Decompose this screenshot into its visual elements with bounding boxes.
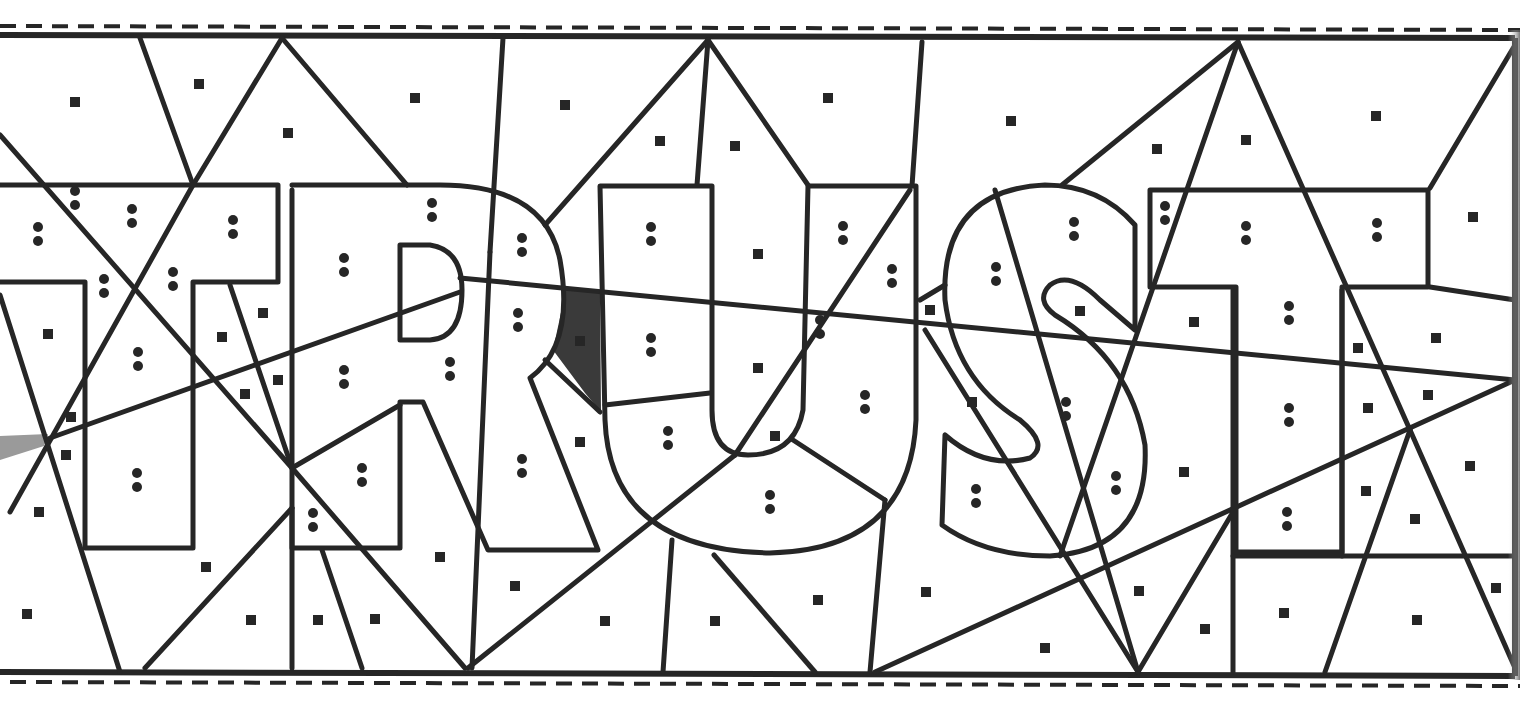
square-symbol bbox=[753, 249, 763, 259]
double-dot-symbol bbox=[513, 308, 523, 332]
square-symbol bbox=[435, 552, 445, 562]
square-symbol bbox=[1353, 343, 1363, 353]
double-dot-symbol bbox=[308, 508, 318, 532]
square-symbol bbox=[1361, 486, 1371, 496]
double-dot-symbol bbox=[887, 264, 897, 288]
square-symbol bbox=[194, 79, 204, 89]
square-symbol bbox=[370, 614, 380, 624]
square-symbol bbox=[560, 100, 570, 110]
square-symbol bbox=[823, 93, 833, 103]
double-dot-symbol bbox=[1284, 301, 1294, 325]
square-symbol bbox=[1241, 135, 1251, 145]
square-symbol bbox=[967, 397, 977, 407]
double-dot-symbol bbox=[1372, 218, 1382, 242]
double-dot-symbol bbox=[357, 463, 367, 487]
square-symbol bbox=[34, 507, 44, 517]
double-dot-symbol bbox=[1284, 403, 1294, 427]
double-dot-symbol bbox=[1241, 221, 1251, 245]
double-dot-symbol bbox=[1069, 217, 1079, 241]
double-dot-symbol bbox=[427, 198, 437, 222]
double-dot-symbol bbox=[339, 253, 349, 277]
square-symbol bbox=[1491, 583, 1501, 593]
double-dot-symbol bbox=[1160, 201, 1170, 225]
square-symbol bbox=[710, 616, 720, 626]
background-lines bbox=[0, 38, 1515, 672]
double-dot-symbol bbox=[991, 262, 1001, 286]
square-symbol bbox=[600, 616, 610, 626]
square-symbol bbox=[1134, 586, 1144, 596]
square-symbol bbox=[575, 336, 585, 346]
square-symbol bbox=[1189, 317, 1199, 327]
square-symbol bbox=[1006, 116, 1016, 126]
double-dot-symbol bbox=[339, 365, 349, 389]
square-symbol bbox=[240, 389, 250, 399]
double-dot-symbol bbox=[1111, 471, 1121, 495]
page-edge-shadow bbox=[1508, 30, 1520, 680]
double-dot-symbol bbox=[646, 222, 656, 246]
square-symbol bbox=[1179, 467, 1189, 477]
square-symbol bbox=[313, 615, 323, 625]
square-symbol bbox=[1431, 333, 1441, 343]
square-symbol bbox=[1412, 615, 1422, 625]
square-symbol bbox=[1075, 306, 1085, 316]
coloring-sheet bbox=[0, 0, 1520, 725]
square-symbol bbox=[1200, 624, 1210, 634]
double-dot-symbol bbox=[1282, 507, 1292, 531]
double-dot-symbol bbox=[127, 204, 137, 228]
double-dot-symbol bbox=[99, 274, 109, 298]
square-symbol bbox=[1465, 461, 1475, 471]
double-dot-symbol bbox=[133, 347, 143, 371]
square-symbol bbox=[1279, 608, 1289, 618]
double-dot-symbol bbox=[646, 333, 656, 357]
double-dot-symbol bbox=[663, 426, 673, 450]
square-symbol bbox=[201, 562, 211, 572]
double-dot-symbol bbox=[33, 222, 43, 246]
double-dot-symbol bbox=[517, 454, 527, 478]
double-dot-symbol bbox=[168, 267, 178, 291]
double-dot-symbol bbox=[838, 221, 848, 245]
double-dot-symbol bbox=[132, 468, 142, 492]
square-symbol bbox=[655, 136, 665, 146]
square-symbol bbox=[43, 329, 53, 339]
square-symbol bbox=[921, 587, 931, 597]
square-symbol bbox=[258, 308, 268, 318]
square-symbol bbox=[1152, 144, 1162, 154]
double-dot-symbol bbox=[860, 390, 870, 414]
square-symbol bbox=[410, 93, 420, 103]
double-dot-symbol bbox=[517, 233, 527, 257]
double-dot-symbol bbox=[971, 484, 981, 508]
double-dot-symbol bbox=[765, 490, 775, 514]
square-symbol bbox=[510, 581, 520, 591]
square-symbol bbox=[770, 431, 780, 441]
square-symbol bbox=[925, 305, 935, 315]
square-symbol bbox=[1423, 390, 1433, 400]
square-symbol bbox=[1410, 514, 1420, 524]
square-symbol bbox=[730, 141, 740, 151]
double-dot-symbol bbox=[228, 215, 238, 239]
square-symbol bbox=[22, 609, 32, 619]
double-dot-symbol bbox=[70, 186, 80, 210]
square-symbol bbox=[246, 615, 256, 625]
square-symbol bbox=[575, 437, 585, 447]
square-symbol bbox=[66, 412, 76, 422]
square-symbol bbox=[1371, 111, 1381, 121]
square-symbol bbox=[217, 332, 227, 342]
square-symbol bbox=[61, 450, 71, 460]
square-symbols bbox=[22, 79, 1501, 653]
square-symbol bbox=[1040, 643, 1050, 653]
square-symbol bbox=[283, 128, 293, 138]
top-dashed-line bbox=[0, 26, 1520, 30]
double-dot-symbol bbox=[445, 357, 455, 381]
bottom-dashed-line bbox=[10, 682, 1520, 686]
square-symbol bbox=[273, 375, 283, 385]
square-symbol bbox=[813, 595, 823, 605]
square-symbol bbox=[1468, 212, 1478, 222]
square-symbol bbox=[70, 97, 80, 107]
square-symbol bbox=[753, 363, 763, 373]
square-symbol bbox=[1363, 403, 1373, 413]
